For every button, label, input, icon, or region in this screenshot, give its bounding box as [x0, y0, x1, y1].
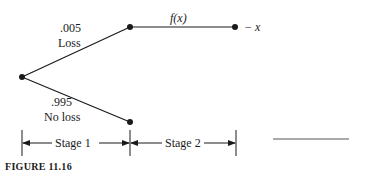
no-loss-probability: .995	[51, 95, 72, 109]
no-loss-label: No loss	[44, 110, 81, 124]
loss-probability: .005	[60, 21, 81, 35]
loss-label: Loss	[58, 36, 81, 50]
stage2-label: Stage 2	[165, 136, 201, 150]
decision-tree-diagram: .005 Loss .995 No loss f(x) − x Stage 1 …	[0, 0, 373, 182]
loss-node	[127, 24, 133, 30]
no-loss-node	[127, 119, 133, 125]
figure-caption: FIGURE 11.16	[5, 161, 72, 172]
payoff-function-label: f(x)	[170, 11, 187, 25]
terminal-value-label: − x	[244, 20, 261, 34]
terminal-node	[232, 24, 238, 30]
stage1-label: Stage 1	[55, 136, 91, 150]
root-node	[19, 74, 25, 80]
